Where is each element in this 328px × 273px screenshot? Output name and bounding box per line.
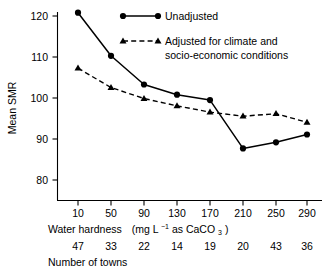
y-axis-tick-labels: 120 110 100 90 80 (30, 10, 48, 186)
y-tick-label-80: 80 (36, 174, 48, 186)
x-tick-label-10: 10 (72, 207, 84, 219)
towns-axis-title: Number of towns (48, 256, 127, 268)
legend-label-adjusted-line1: Adjusted for climate and (165, 35, 278, 47)
data-point-adjusted-290 (304, 119, 311, 125)
data-point-adjusted-170 (207, 109, 214, 115)
legend-label-unadjusted: Unadjusted (165, 10, 218, 22)
series-line-unadjusted (78, 13, 307, 149)
x-tick-label-90: 90 (138, 207, 150, 219)
y-tick-label-100: 100 (30, 92, 48, 104)
x-tick-label-290: 290 (298, 207, 316, 219)
y-tick-label-120: 120 (30, 10, 48, 22)
x-axis-title-unit-mid: as CaCO (172, 223, 215, 235)
y-tick-label-110: 110 (31, 51, 48, 63)
towns-value-170: 19 (204, 240, 216, 252)
series-line-adjusted (78, 68, 307, 122)
towns-value-50: 33 (105, 240, 117, 252)
legend-item-adjusted[interactable]: Adjusted for climate and socio-economic … (120, 35, 289, 61)
data-point-unadjusted-170 (207, 97, 213, 103)
x-axis-title-unit-sup: −1 (161, 223, 169, 230)
legend-swatch-marker-end-adjusted (155, 37, 162, 43)
x-axis-title-unit-post: ) (225, 223, 229, 235)
towns-value-290: 36 (301, 240, 313, 252)
series-markers-unadjusted (75, 10, 310, 152)
towns-value-10: 47 (72, 240, 84, 252)
x-axis-title-main: Water hardness (48, 223, 122, 235)
x-axis-title-unit-pre: (mg L (132, 223, 159, 235)
legend-swatch-marker-start-unadjusted (120, 13, 126, 19)
data-point-unadjusted-90 (141, 81, 147, 87)
x-axis-ticks (78, 201, 307, 206)
data-point-unadjusted-290 (304, 131, 310, 137)
towns-row: 47 33 22 14 19 20 43 36 (72, 240, 313, 252)
x-tick-label-250: 250 (267, 207, 285, 219)
data-point-adjusted-130 (174, 102, 181, 108)
legend-label-adjusted-line2: socio-economic conditions (165, 49, 288, 61)
x-tick-label-170: 170 (201, 207, 219, 219)
x-axis-tick-labels: 10 50 90 130 170 210 250 290 (72, 207, 316, 219)
data-point-adjusted-50 (108, 84, 115, 90)
towns-value-250: 43 (270, 240, 282, 252)
x-axis-title: Water hardness (mg L −1 as CaCO 3 ) (48, 219, 228, 237)
chart-legend: Unadjusted Adjusted for climate and soci… (120, 10, 289, 61)
data-point-adjusted-250 (273, 110, 280, 116)
data-point-unadjusted-50 (108, 53, 114, 59)
data-point-adjusted-10 (75, 65, 82, 71)
data-point-unadjusted-130 (174, 92, 180, 98)
x-tick-label-210: 210 (234, 207, 252, 219)
legend-swatch-marker-end-unadjusted (155, 13, 161, 19)
legend-item-unadjusted[interactable]: Unadjusted (120, 10, 218, 22)
towns-value-130: 14 (171, 240, 183, 252)
y-tick-label-90: 90 (36, 133, 48, 145)
data-point-unadjusted-250 (273, 139, 279, 145)
y-axis-ticks (53, 16, 58, 180)
y-axis-title: Mean SMR (6, 81, 18, 134)
chart-canvas: 120 110 100 90 80 Mean SMR 10 50 90 130 … (0, 0, 328, 273)
x-tick-label-130: 130 (168, 207, 186, 219)
series-markers-adjusted (75, 65, 311, 125)
towns-value-90: 22 (138, 240, 150, 252)
x-tick-label-50: 50 (105, 207, 117, 219)
data-point-unadjusted-10 (75, 10, 81, 16)
towns-value-210: 20 (237, 240, 249, 252)
data-point-unadjusted-210 (240, 145, 246, 151)
x-axis-title-unit-sub: 3 (218, 229, 222, 236)
chart-figure: 120 110 100 90 80 Mean SMR 10 50 90 130 … (0, 0, 328, 273)
